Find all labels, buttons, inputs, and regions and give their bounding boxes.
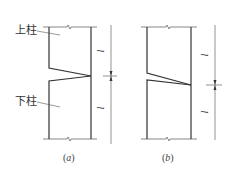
panel-a-lower-length-label: l — [96, 107, 106, 110]
panel-b-column — [141, 25, 197, 141]
lower-column-label: 下柱 — [15, 96, 37, 107]
panel-a-bottom-break-line — [43, 137, 97, 141]
panel-a-dimension — [103, 25, 117, 144]
panel-b-upper-length-label: l — [200, 54, 210, 57]
panel-a-caption: (a) — [63, 153, 75, 163]
panel-b-upper-column — [147, 27, 191, 85]
panel-b-caption: (b) — [162, 153, 174, 163]
panel-a-column — [43, 25, 97, 141]
panel-b-top-break-line — [141, 25, 197, 29]
panel-b-dimension — [206, 25, 222, 140]
panel-a-lower-column — [49, 76, 91, 139]
panel-b-bottom-break-line — [141, 137, 197, 141]
panel-a-upper-length-label: l — [96, 50, 106, 53]
panel-a-top-break-line — [43, 25, 97, 29]
panel-b-lower-column — [147, 80, 191, 139]
panel-b-lower-length-label: l — [200, 111, 210, 114]
upper-column-label: 上柱 — [15, 25, 37, 36]
